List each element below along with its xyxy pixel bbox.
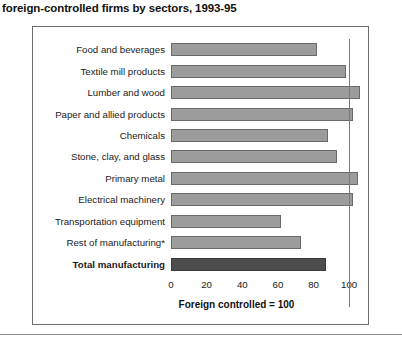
- value-axis: 020406080100: [171, 275, 367, 295]
- bar[interactable]: [171, 236, 301, 249]
- category-label: Rest of manufacturing*: [33, 232, 171, 253]
- category-label: Chemicals: [33, 125, 171, 146]
- bar-row: [171, 232, 367, 253]
- bar[interactable]: [171, 65, 346, 78]
- axis-tick-label: 80: [308, 279, 319, 290]
- axis-tick-label: 60: [273, 279, 284, 290]
- bar-row: [171, 125, 367, 146]
- bar[interactable]: [171, 43, 317, 56]
- category-label: Primary metal: [33, 168, 171, 189]
- category-label: Paper and allied products: [33, 103, 171, 124]
- category-label: Stone, clay, and glass: [33, 146, 171, 167]
- bar-row: [171, 211, 367, 232]
- bar-row: [171, 146, 367, 167]
- category-label: Food and beverages: [33, 39, 171, 60]
- bar[interactable]: [171, 150, 337, 163]
- bar[interactable]: [171, 193, 353, 206]
- chart-panel: Food and beveragesTextile mill productsL…: [32, 26, 369, 325]
- bar-row: [171, 82, 367, 103]
- bar[interactable]: [171, 129, 328, 142]
- reference-line-100: [349, 39, 350, 307]
- bar-row: [171, 189, 367, 210]
- bar[interactable]: [171, 108, 353, 121]
- category-label: Transportation equipment: [33, 211, 171, 232]
- category-label: Electrical machinery: [33, 189, 171, 210]
- bar-total[interactable]: [171, 258, 326, 271]
- chart-plot-wrapper: Food and beveragesTextile mill productsL…: [33, 27, 370, 326]
- category-label: Textile mill products: [33, 60, 171, 81]
- category-label: Total manufacturing: [33, 254, 171, 275]
- category-axis: Food and beveragesTextile mill productsL…: [33, 39, 171, 275]
- bottom-divider: [0, 334, 402, 335]
- axis-caption: Foreign controlled = 100: [103, 299, 370, 310]
- bar[interactable]: [171, 86, 360, 99]
- bar-row: [171, 60, 367, 81]
- bar-row: [171, 103, 367, 124]
- bar-row: [171, 39, 367, 60]
- bar-row: [171, 168, 367, 189]
- plot-area: [171, 39, 367, 275]
- page-title: foreign-controlled firms by sectors, 199…: [2, 2, 400, 14]
- category-label: Lumber and wood: [33, 82, 171, 103]
- axis-tick-label: 40: [237, 279, 248, 290]
- axis-tick-label: 20: [201, 279, 212, 290]
- axis-tick-label: 0: [168, 279, 173, 290]
- bar[interactable]: [171, 172, 358, 185]
- bar[interactable]: [171, 215, 281, 228]
- bar-row: [171, 254, 367, 275]
